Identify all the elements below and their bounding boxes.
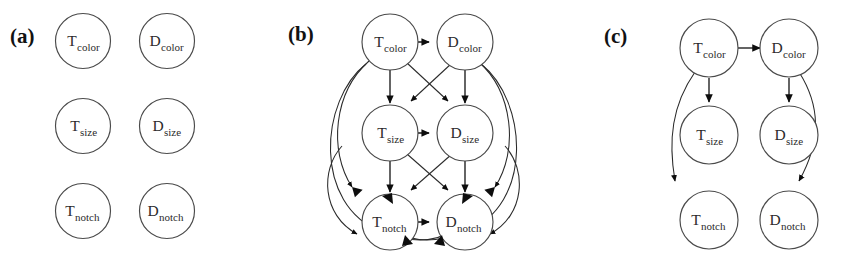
node-d-size-base: D	[450, 124, 461, 141]
node-d-notch-base: D	[445, 213, 456, 230]
node-d-size-sub: size	[786, 135, 803, 147]
panel-c: (c) T color	[564, 0, 845, 267]
node-d-color: D color	[437, 14, 493, 70]
node-d-notch: D notch	[437, 194, 493, 250]
node-d-size: D size	[140, 99, 195, 154]
panel-a-graph: T color D color T size D size T	[0, 0, 282, 267]
node-d-color-base: D	[447, 33, 458, 50]
node-d-size-sub: size	[164, 126, 181, 138]
node-d-notch-base: D	[769, 211, 780, 228]
node-d-color: D color	[140, 14, 195, 69]
node-t-notch-base: T	[372, 213, 382, 230]
node-t-size-sub: size	[387, 133, 404, 145]
node-d-notch-sub: notch	[159, 211, 184, 223]
node-d-color: D color	[760, 19, 818, 77]
node-t-size-sub: size	[80, 126, 97, 138]
panel-b: (b)	[282, 0, 564, 267]
edge-dcolor-tsize	[411, 63, 452, 101]
node-t-notch: T notch	[56, 184, 111, 239]
node-t-size-base: T	[377, 124, 387, 141]
node-t-notch-base: T	[65, 202, 75, 219]
node-t-size: T size	[56, 99, 111, 154]
figure-root: (a) T color D color T size D size	[0, 0, 845, 267]
node-t-notch-sub: notch	[701, 220, 726, 232]
node-d-notch: D notch	[140, 184, 195, 239]
node-d-size-base: D	[774, 126, 785, 143]
node-t-color: T color	[56, 14, 111, 69]
node-d-color-sub: color	[459, 42, 482, 54]
panel-b-graph: T color D color T size D size T notc	[282, 0, 564, 267]
edge-tsize-dnotch	[407, 154, 448, 190]
node-t-notch-sub: notch	[382, 222, 407, 234]
node-t-size-base: T	[696, 126, 706, 143]
node-t-notch: T notch	[680, 191, 738, 249]
node-d-color-sub: color	[161, 41, 184, 53]
node-t-color: T color	[680, 19, 738, 77]
node-d-notch-sub: notch	[781, 220, 806, 232]
edge-dsize-tnotch-outer	[490, 146, 519, 234]
node-t-size-base: T	[70, 117, 80, 134]
node-d-size-base: D	[152, 117, 163, 134]
node-t-color-sub: color	[77, 41, 100, 53]
node-d-notch: D notch	[760, 191, 818, 249]
node-t-color-sub: color	[703, 48, 726, 60]
node-d-size: D size	[760, 106, 818, 164]
panel-c-graph: T color D color T size D size T notc	[564, 0, 845, 267]
edge-tsize-dnotch-outer	[328, 146, 357, 234]
node-t-notch-base: T	[691, 211, 701, 228]
node-t-color-sub: color	[384, 42, 407, 54]
node-t-notch-sub: notch	[75, 211, 100, 223]
node-t-color: T color	[362, 14, 418, 70]
edge-dsize-tnotch	[411, 154, 452, 190]
node-d-color-sub: color	[783, 48, 806, 60]
node-t-size-sub: size	[706, 135, 723, 147]
node-t-color-base: T	[374, 33, 384, 50]
node-t-size: T size	[680, 106, 738, 164]
node-t-color-base: T	[67, 32, 77, 49]
node-t-size: T size	[362, 105, 418, 161]
edge-tcolor-dsize	[407, 63, 448, 101]
node-d-notch-sub: notch	[457, 222, 482, 234]
panel-a: (a) T color D color T size D size	[0, 0, 282, 267]
node-d-color-base: D	[149, 32, 160, 49]
node-d-size: D size	[437, 105, 493, 161]
node-d-color-base: D	[771, 39, 782, 56]
node-d-size-sub: size	[462, 133, 479, 145]
node-d-notch-base: D	[147, 202, 158, 219]
node-t-color-base: T	[693, 39, 703, 56]
